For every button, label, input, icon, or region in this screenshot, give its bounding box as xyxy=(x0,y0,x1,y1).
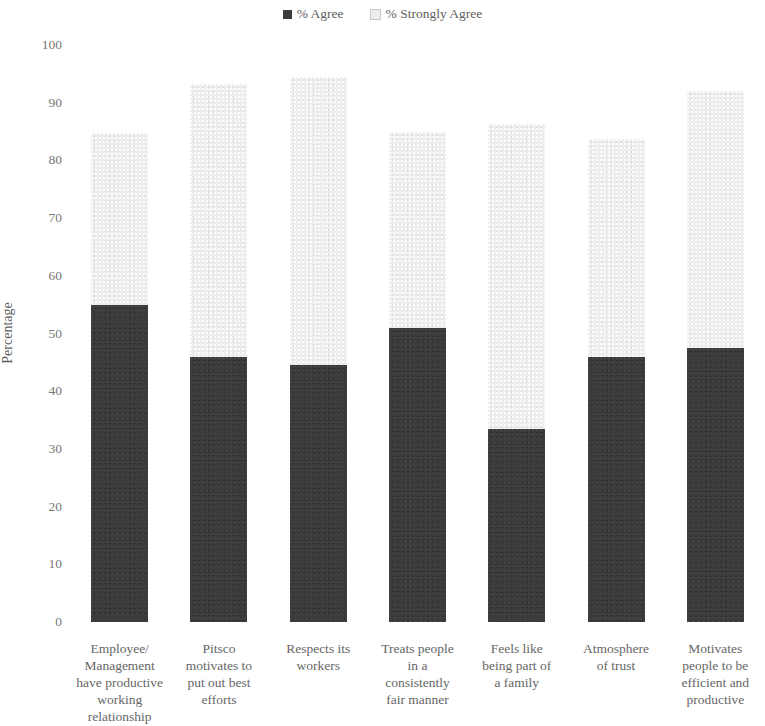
stacked-bar[interactable] xyxy=(488,124,545,622)
x-axis-label: Feels likebeing part ofa family xyxy=(467,640,566,725)
stacked-bar[interactable] xyxy=(389,132,446,622)
stacked-bar[interactable] xyxy=(91,133,148,622)
bar-segment-strongly-agree[interactable] xyxy=(190,84,247,356)
x-axis-label: Treats peoplein aconsistentlyfair manner xyxy=(368,640,467,725)
bar-slot xyxy=(566,45,665,622)
bar-segment-agree[interactable] xyxy=(389,328,446,622)
bar-segment-strongly-agree[interactable] xyxy=(290,77,347,366)
bar-slot xyxy=(467,45,566,622)
bar-segment-strongly-agree[interactable] xyxy=(91,133,148,304)
bar-segment-agree[interactable] xyxy=(91,305,148,622)
y-axis-tick: 80 xyxy=(49,152,63,168)
bar-slot xyxy=(368,45,467,622)
x-axis-label: Pitscomotivates toput out bestefforts xyxy=(169,640,268,725)
x-axis-label: Employee/Managementhave productiveworkin… xyxy=(70,640,169,725)
bar-segment-agree[interactable] xyxy=(588,357,645,622)
stacked-bar[interactable] xyxy=(588,138,645,622)
y-axis-title: Percentage xyxy=(0,302,16,363)
bar-segment-agree[interactable] xyxy=(687,348,744,622)
legend-swatch-strongly-agree xyxy=(370,9,381,20)
plot-area: Percentage 1009080706050403020100 xyxy=(70,45,765,622)
y-axis-tick: 20 xyxy=(49,499,63,515)
bar-slot xyxy=(269,45,368,622)
stacked-bar[interactable] xyxy=(190,84,247,622)
bar-segment-agree[interactable] xyxy=(488,429,545,622)
stacked-bar[interactable] xyxy=(687,91,744,622)
stacked-bar[interactable] xyxy=(290,77,347,622)
stacked-bar-chart: % Agree % Strongly Agree Percentage 1009… xyxy=(0,0,765,726)
y-axis-tick: 70 xyxy=(49,210,63,226)
chart-legend: % Agree % Strongly Agree xyxy=(0,6,765,22)
bar-segment-agree[interactable] xyxy=(190,357,247,622)
x-axis-label: Atmosphereof trust xyxy=(566,640,665,725)
legend-item-agree: % Agree xyxy=(283,6,344,22)
bar-segment-strongly-agree[interactable] xyxy=(389,132,446,328)
bar-segment-strongly-agree[interactable] xyxy=(588,139,645,357)
y-axis-tick: 60 xyxy=(49,268,63,284)
y-axis-tick: 50 xyxy=(49,326,63,342)
bar-slot xyxy=(169,45,268,622)
y-axis-tick: 40 xyxy=(49,383,63,399)
y-axis-tick: 0 xyxy=(55,614,62,630)
bar-segment-strongly-agree[interactable] xyxy=(488,124,545,429)
y-axis-tick: 100 xyxy=(42,37,62,53)
legend-swatch-agree xyxy=(283,10,292,19)
bar-segment-agree[interactable] xyxy=(290,365,347,622)
legend-label-agree: % Agree xyxy=(297,6,344,22)
legend-label-strongly-agree: % Strongly Agree xyxy=(386,6,483,22)
bar-group xyxy=(70,45,765,622)
legend-item-strongly-agree: % Strongly Agree xyxy=(370,6,483,22)
x-axis-label: Respects itsworkers xyxy=(269,640,368,725)
y-axis-tick: 10 xyxy=(49,556,63,572)
bar-slot xyxy=(70,45,169,622)
x-axis-labels: Employee/Managementhave productiveworkin… xyxy=(70,640,765,725)
y-axis-tick: 90 xyxy=(49,95,63,111)
x-axis-label: Motivatespeople to beefficient andproduc… xyxy=(666,640,765,725)
bar-slot xyxy=(666,45,765,622)
y-axis-tick: 30 xyxy=(49,441,63,457)
bar-segment-strongly-agree[interactable] xyxy=(687,91,744,348)
